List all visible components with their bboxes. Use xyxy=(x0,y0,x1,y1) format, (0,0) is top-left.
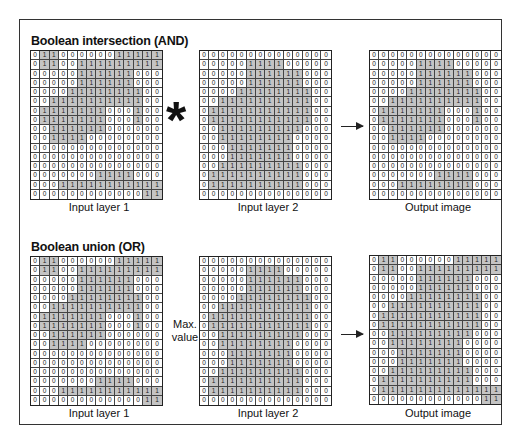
grid-cell: 0 xyxy=(312,276,321,285)
grid-cell: 0 xyxy=(50,162,59,171)
grid-cell: 1 xyxy=(445,339,454,348)
grid-cell: 0 xyxy=(200,190,209,199)
grid-cell: 0 xyxy=(312,153,321,162)
grid-cell: 0 xyxy=(31,181,40,190)
grid-cell: 1 xyxy=(256,162,265,171)
grid-cell: 1 xyxy=(435,312,444,321)
grid-cell: 1 xyxy=(78,107,87,116)
grid-cell: 0 xyxy=(491,171,500,180)
grid-cell: 0 xyxy=(115,350,124,359)
grid-cell: 1 xyxy=(454,330,463,339)
grid-cell: 1 xyxy=(247,97,256,106)
grid-cell: 1 xyxy=(237,313,246,322)
grid-cell: 1 xyxy=(134,116,143,125)
grid-cell: 1 xyxy=(417,321,426,330)
grid-cell: 0 xyxy=(426,171,435,180)
and-caption-output: Output image xyxy=(368,201,508,213)
grid-cell: 1 xyxy=(50,257,59,266)
grid-cell: 0 xyxy=(59,51,68,60)
grid-cell: 0 xyxy=(463,190,472,199)
grid-cell: 1 xyxy=(87,285,96,294)
grid-cell: 0 xyxy=(398,51,407,60)
grid-cell: 1 xyxy=(68,107,77,116)
grid-cell: 0 xyxy=(463,134,472,143)
grid-cell: 0 xyxy=(491,349,500,358)
grid-cell: 0 xyxy=(124,350,133,359)
grid-cell: 0 xyxy=(293,359,302,368)
grid-cell: 0 xyxy=(152,97,161,106)
grid-cell: 0 xyxy=(200,70,209,79)
grid-cell: 1 xyxy=(407,321,416,330)
grid-cell: 1 xyxy=(426,125,435,134)
grid-cell: 0 xyxy=(200,266,209,275)
grid-cell: 0 xyxy=(68,144,77,153)
grid-cell: 0 xyxy=(68,79,77,88)
grid-cell: 0 xyxy=(398,395,407,404)
grid-cell: 0 xyxy=(491,339,500,348)
grid-cell: 1 xyxy=(50,134,59,143)
grid-cell: 0 xyxy=(200,153,209,162)
grid-cell: 0 xyxy=(482,162,491,171)
grid-cell: 0 xyxy=(473,51,482,60)
grid-cell: 1 xyxy=(445,367,454,376)
grid-cell: 0 xyxy=(143,107,152,116)
grid-cell: 0 xyxy=(482,134,491,143)
grid-cell: 0 xyxy=(209,257,218,266)
grid-cell: 0 xyxy=(379,144,388,153)
grid-cell: 1 xyxy=(228,350,237,359)
grid-cell: 0 xyxy=(40,285,49,294)
grid-cell: 1 xyxy=(106,387,115,396)
grid-cell: 1 xyxy=(407,116,416,125)
grid-cell: 0 xyxy=(68,350,77,359)
grid-cell: 0 xyxy=(134,162,143,171)
grid-cell: 0 xyxy=(87,340,96,349)
grid-cell: 1 xyxy=(265,116,274,125)
grid-cell: 0 xyxy=(398,70,407,79)
grid-cell: 1 xyxy=(275,294,284,303)
grid-cell: 1 xyxy=(435,97,444,106)
grid-cell: 0 xyxy=(40,144,49,153)
grid-cell: 1 xyxy=(454,171,463,180)
grid-cell: 0 xyxy=(200,359,209,368)
grid-cell: 0 xyxy=(200,171,209,180)
grid-cell: 0 xyxy=(209,144,218,153)
grid-cell: 1 xyxy=(473,321,482,330)
grid-cell: 0 xyxy=(454,134,463,143)
grid-cell: 1 xyxy=(50,322,59,331)
grid-cell: 0 xyxy=(417,144,426,153)
grid-cell: 0 xyxy=(31,257,40,266)
grid-cell: 0 xyxy=(124,313,133,322)
grid-cell: 1 xyxy=(115,79,124,88)
grid-cell: 1 xyxy=(398,367,407,376)
grid-cell: 0 xyxy=(124,331,133,340)
grid-cell: 1 xyxy=(303,116,312,125)
grid-cell: 0 xyxy=(152,331,161,340)
grid-cell: 0 xyxy=(284,51,293,60)
grid-cell: 0 xyxy=(303,377,312,386)
grid-cell: 1 xyxy=(256,125,265,134)
grid-cell: 0 xyxy=(370,302,379,311)
grid-cell: 1 xyxy=(417,386,426,395)
grid-cell: 0 xyxy=(482,275,491,284)
grid-cell: 0 xyxy=(59,396,68,405)
or-caption-layer-1: Input layer 1 xyxy=(29,407,169,419)
grid-cell: 1 xyxy=(417,358,426,367)
grid-cell: 0 xyxy=(59,276,68,285)
grid-cell: 0 xyxy=(152,144,161,153)
grid-cell: 0 xyxy=(321,331,330,340)
grid-cell: 1 xyxy=(275,125,284,134)
grid-cell: 0 xyxy=(435,134,444,143)
grid-cell: 1 xyxy=(96,303,105,312)
grid-cell: 0 xyxy=(389,190,398,199)
grid-cell: 0 xyxy=(209,134,218,143)
grid-cell: 0 xyxy=(31,97,40,106)
grid-cell: 1 xyxy=(143,387,152,396)
grid-cell: 1 xyxy=(426,367,435,376)
grid-cell: 1 xyxy=(454,79,463,88)
grid-cell: 0 xyxy=(50,377,59,386)
grid-cell: 0 xyxy=(96,368,105,377)
grid-cell: 1 xyxy=(435,79,444,88)
grid-cell: 1 xyxy=(275,387,284,396)
grid-cell: 1 xyxy=(78,60,87,69)
grid-cell: 0 xyxy=(312,303,321,312)
